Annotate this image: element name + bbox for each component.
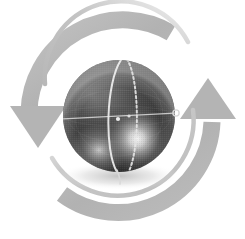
rotating-sphere-graphic — [0, 0, 245, 239]
sphere-node-axis — [127, 114, 130, 117]
illustration-canvas: Rotating Sphere Grayscale sphere with la… — [0, 0, 245, 239]
sphere-node-center — [116, 117, 120, 121]
